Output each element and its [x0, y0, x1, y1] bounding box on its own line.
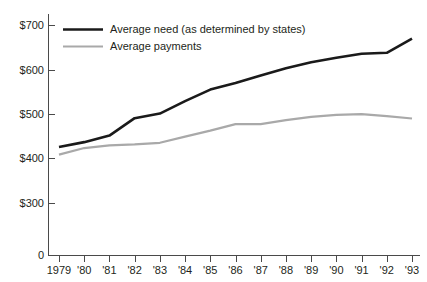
- line-chart: $700 $600 $500 $400 $300 0 1979'80'81'82…: [0, 0, 427, 282]
- legend-label-average-need: Average need (as determined by states): [110, 23, 305, 35]
- legend-label-average-payments: Average payments: [110, 40, 202, 52]
- y-tick-label-400: $400: [20, 152, 44, 164]
- x-tick-label: '86: [228, 264, 242, 276]
- y-tick-group: $700 $600 $500 $400 $300 0: [20, 19, 55, 261]
- chart-legend: Average need (as determined by states) A…: [63, 23, 305, 52]
- chart-container: $700 $600 $500 $400 $300 0 1979'80'81'82…: [0, 0, 427, 282]
- axis-group: [49, 14, 421, 256]
- x-tick-group: [60, 256, 413, 262]
- x-tick-label: '82: [127, 264, 141, 276]
- x-tick-label: '91: [354, 264, 368, 276]
- x-tick-label: '92: [380, 264, 394, 276]
- x-tick-label: '85: [203, 264, 217, 276]
- x-tick-label: '90: [329, 264, 343, 276]
- x-tick-label: '80: [77, 264, 91, 276]
- x-tick-label: '87: [254, 264, 268, 276]
- x-tick-label: '88: [279, 264, 293, 276]
- x-tick-label: '83: [153, 264, 167, 276]
- y-tick-label-600: $600: [20, 64, 44, 76]
- series-line-average-need: [59, 39, 412, 147]
- x-tick-label: '81: [102, 264, 116, 276]
- x-tick-label: '84: [178, 264, 192, 276]
- y-tick-label-500: $500: [20, 108, 44, 120]
- y-tick-label-0: 0: [38, 249, 44, 261]
- x-tick-label: '89: [304, 264, 318, 276]
- series-group: [59, 39, 412, 155]
- y-tick-label-700: $700: [20, 19, 44, 31]
- x-tick-label: 1979: [47, 264, 71, 276]
- x-tick-label: '93: [405, 264, 419, 276]
- x-label-group: 1979'80'81'82'83'84'85'86'87'88'89'90'91…: [47, 264, 419, 276]
- y-tick-label-300: $300: [20, 197, 44, 209]
